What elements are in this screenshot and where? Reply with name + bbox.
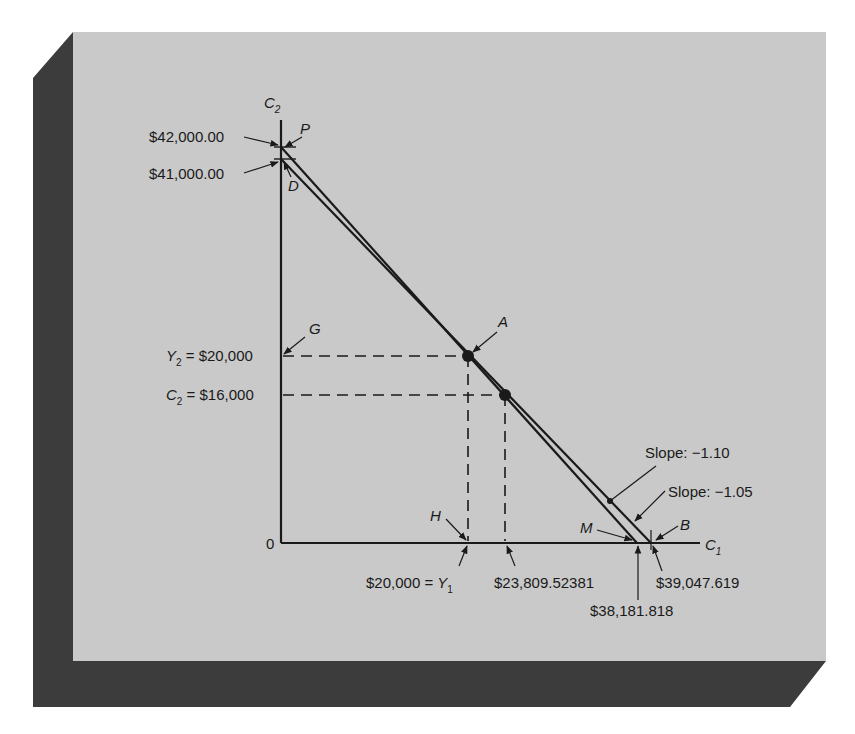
origin-label: 0 <box>266 535 274 552</box>
label-m: M <box>580 519 593 536</box>
label-x38181: $38,181.818 <box>590 602 673 619</box>
label-p: P <box>300 120 310 137</box>
label-42000: $42,000.00 <box>149 128 224 145</box>
label-a: A <box>497 313 508 330</box>
label-x23809: $23,809.52381 <box>494 574 594 591</box>
budget-constraint-diagram: C2 C1 0 $42,000.00 $41,000.00 P D G Y2 =… <box>0 0 855 734</box>
label-h: H <box>430 507 441 524</box>
point-consumption <box>499 389 511 401</box>
label-41000: $41,000.00 <box>149 165 224 182</box>
point-a <box>462 350 474 362</box>
label-g: G <box>309 320 321 337</box>
label-slope-110: Slope: −1.10 <box>645 444 730 461</box>
label-x39047: $39,047.619 <box>656 574 739 591</box>
label-b: B <box>680 516 690 533</box>
label-d: D <box>288 177 299 194</box>
label-slope-105: Slope: −1.05 <box>668 483 753 500</box>
